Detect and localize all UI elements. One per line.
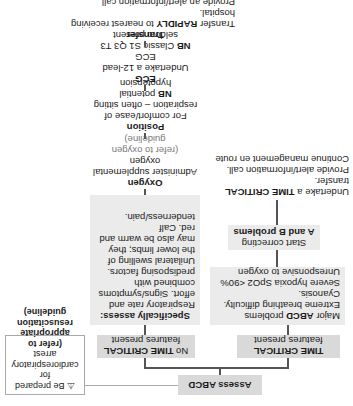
text: RAPIDLY [157, 19, 198, 30]
text: TIME CRITICAL [104, 346, 174, 357]
text: Undertake a 12-lead ECG [93, 52, 198, 74]
time-critical-title: TIME CRITICAL [254, 346, 324, 357]
text: transfer. [315, 176, 349, 187]
connector [145, 41, 147, 47]
list-item: Cyanosis. [298, 289, 340, 300]
position-box: Position For comfort/ease of respiration… [93, 91, 198, 133]
warning-icon: ⚠ [67, 381, 75, 391]
text: NB [177, 41, 191, 52]
connector [145, 358, 147, 369]
connector [288, 325, 290, 335]
text: Oxygen [90, 178, 200, 189]
ecg-box: ECG Undertake a 12-lead ECG NB Classic S… [93, 47, 198, 85]
text: Provide an alert/information call. [55, 0, 235, 8]
text: For comfort/ease of respiration – often … [93, 100, 198, 122]
time-critical-subtitle: features present [254, 335, 323, 346]
text: Provide alert/information call. [227, 165, 350, 176]
text: Administer supplemental oxygen [90, 156, 200, 178]
text: Continue management en route [215, 154, 349, 165]
connector [288, 358, 290, 369]
connector [145, 85, 147, 91]
connector [145, 133, 147, 139]
flowchart: Assess ABCD ⚠ Be prepared for cardioresp… [0, 0, 353, 406]
text: TIME CRITICAL [225, 187, 295, 198]
warning-callout: ⚠ Be prepared for cardiorespiratory arre… [5, 335, 85, 395]
text: Transfer [55, 30, 235, 41]
text: Major [316, 311, 340, 322]
list-item: Unresponsive to oxygen [238, 267, 340, 278]
text: Start correcting [242, 238, 306, 249]
specifically-assess-box: Specifically assess: Respiratory rate an… [90, 195, 200, 325]
text: problems [244, 311, 283, 322]
text: Position [93, 122, 198, 133]
text: NB [158, 89, 172, 100]
oxygen-box: Oxygen Administer supplemental oxygen (r… [90, 139, 200, 189]
connector [277, 250, 279, 267]
text: features present [112, 335, 181, 346]
time-critical-header: TIME CRITICAL features present [237, 335, 340, 358]
text: Transfer [200, 19, 235, 30]
assess-abcd-box: Assess ABCD [178, 375, 262, 395]
callout-connector [85, 385, 178, 386]
start-correcting-box: Start correcting A and B problems [228, 225, 320, 250]
connector [277, 200, 279, 225]
text: Respiratory rate and effort. Signs/sympt… [95, 212, 195, 311]
text: No [176, 346, 188, 357]
callout-reference: (refer to appropriate resuscitation guid… [17, 308, 73, 350]
text: Specifically assess: [95, 311, 195, 322]
text: A and B problems [234, 227, 315, 238]
connector [145, 189, 147, 195]
assess-abcd-label: Assess ABCD [189, 380, 252, 391]
time-critical-transfer: Undertake a TIME CRITICAL transfer. Prov… [201, 160, 351, 200]
connector [145, 325, 147, 335]
transfer-box: Transfer Transfer RAPIDLY to nearest rec… [55, 0, 235, 41]
list-item: Extreme breathing difficulty. [224, 300, 340, 311]
connector [220, 369, 222, 375]
text: ECG [93, 74, 198, 85]
list-item: Severe hypoxia SpO2 <90% [220, 278, 340, 289]
connector [145, 368, 289, 370]
major-problems-box: Major ABCD problems Extreme breathing di… [210, 267, 345, 325]
text: ABCD [286, 311, 313, 322]
non-critical-header: No TIME CRITICAL features present [97, 335, 195, 358]
text: Undertake a [297, 187, 349, 198]
